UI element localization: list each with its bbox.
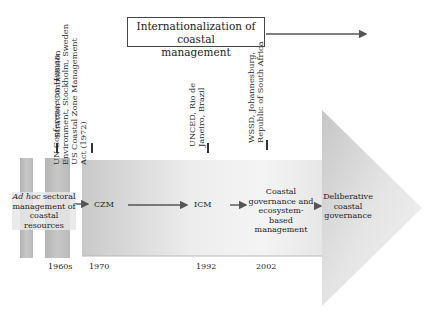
year-1992: 1992: [196, 262, 216, 271]
year-1960s: 1960s: [48, 262, 72, 271]
event-label-unced: UNCED, Rio de Janeiro, Brazil: [188, 83, 206, 147]
stage-icm: ICM: [194, 200, 211, 210]
year-2002: 2002: [256, 262, 276, 271]
stage-deliberative-governance: Deliberative coastal governance: [320, 192, 376, 221]
event-tick-stockholm: [91, 143, 93, 153]
stage-czm: CZM: [94, 200, 114, 210]
stage-adhoc-sectoral: Ad hoc sectoral management of coastal re…: [12, 192, 76, 230]
title-line-1: Internationalization of coastal: [128, 20, 264, 46]
internationalization-title-box: Internationalization of coastal manageme…: [127, 17, 265, 47]
event-label-stockholm: UN Conference on Human Environment, Stoc…: [52, 24, 88, 165]
event-tick-wssd: [266, 140, 268, 150]
title-line-2: management: [128, 46, 264, 59]
event-label-wssd: WSSD, Johannesburg, Republic of South Af…: [247, 41, 265, 143]
year-1970: 1970: [89, 262, 109, 271]
stage-coastal-governance: Coastal governance and ecosystem- based …: [246, 187, 316, 235]
event-tick-unced: [207, 143, 209, 153]
